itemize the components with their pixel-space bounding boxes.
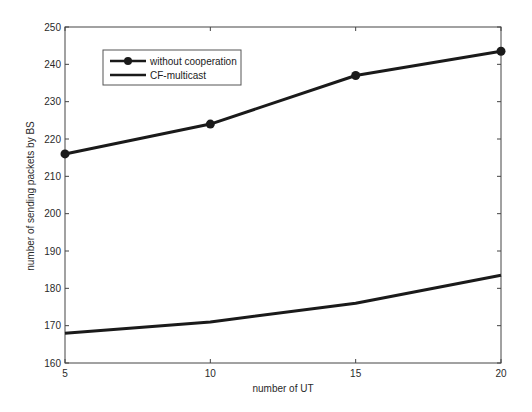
y-tick-label: 250: [44, 22, 61, 33]
x-tick-label: 5: [62, 368, 68, 379]
x-tick-label: 15: [350, 368, 362, 379]
y-tick-label: 170: [44, 320, 61, 331]
series-layer: [61, 47, 506, 333]
y-tick-label: 220: [44, 134, 61, 145]
y-tick-label: 240: [44, 59, 61, 70]
legend: without cooperation CF-multicast: [103, 50, 241, 85]
data-point-circle-icon: [351, 71, 360, 80]
line-chart: 1601701801902002102202302402505101520 wi…: [0, 0, 532, 412]
y-tick-label: 180: [44, 283, 61, 294]
y-tick-label: 230: [44, 96, 61, 107]
y-tick-label: 160: [44, 358, 61, 369]
data-point-circle-icon: [497, 47, 506, 56]
x-axis-label: number of UT: [252, 383, 313, 394]
y-axis-label: number of sending packets by BS: [25, 121, 36, 271]
x-tick-label: 20: [495, 368, 507, 379]
series-line-1: [65, 275, 501, 333]
data-point-circle-icon: [206, 120, 215, 129]
x-tick-label: 10: [205, 368, 217, 379]
y-tick-label: 210: [44, 171, 61, 182]
y-tick-label: 190: [44, 246, 61, 257]
legend-label-without-cooperation: without cooperation: [149, 56, 237, 67]
legend-label-cf-multicast: CF-multicast: [150, 70, 206, 81]
y-tick-label: 200: [44, 208, 61, 219]
data-point-circle-icon: [61, 149, 70, 158]
legend-marker-circle-icon: [124, 57, 132, 65]
